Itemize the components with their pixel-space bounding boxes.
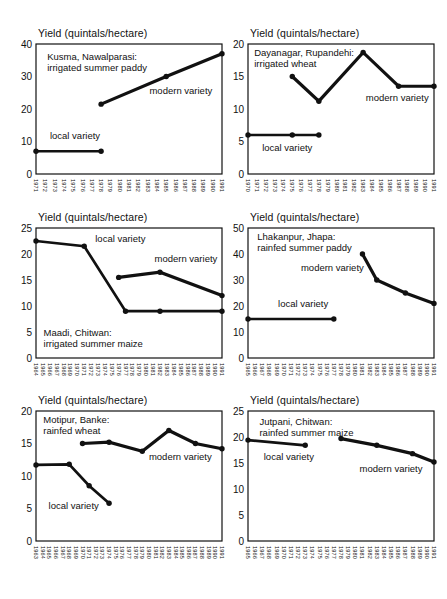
modern-variety-line [83,431,223,452]
local-variety-line [36,464,109,503]
location-label: irrigated summer paddy [47,62,147,73]
x-tick-label: 1966 [47,363,53,376]
x-tick-label: 1983 [374,363,380,376]
x-tick-label: 1991 [431,363,437,376]
y-tick-label: 10 [233,327,245,338]
data-point-marker [374,277,379,282]
x-tick-label: 1980 [352,363,358,376]
data-point-marker [245,437,250,442]
x-tick-label: 1976 [116,363,122,376]
modern-variety-label: modern variety [154,253,217,264]
data-point-marker [410,451,415,456]
x-tick-label: 1981 [359,363,365,376]
x-tick-label: 1984 [369,179,375,192]
x-tick-label: 1979 [139,546,145,559]
x-tick-label: 1988 [410,363,416,376]
y-tick-label: 20 [21,104,33,115]
chart-dayanagar-rupandehi: Yield (quintals/hectare) 051015201970197… [222,26,438,194]
data-point-marker [303,443,308,448]
x-tick-label: 1980 [352,546,358,559]
x-tick-label: 1970 [281,546,287,559]
x-tick-label: 1976 [119,546,125,559]
data-point-marker [82,244,87,249]
x-tick-label: 1974 [106,546,112,559]
y-tick-label: 10 [21,471,33,482]
data-point-marker [106,501,111,506]
data-point-marker [396,84,401,89]
chart-title: Yield (quintals/hectare) [10,26,226,40]
y-tick-label: 20 [21,407,33,417]
chart-motipur-banke: Yield (quintals/hectare) 051015201963196… [10,393,226,561]
x-tick-label: 1971 [81,363,87,376]
x-tick-label: 1989 [205,363,211,376]
x-tick-label: 1980 [334,179,340,192]
y-tick-label: 0 [238,536,244,547]
data-point-marker [166,428,171,433]
x-tick-label: 1972 [295,363,301,376]
x-tick-label: 1990 [424,363,430,376]
modern-variety-label: modern variety [360,463,423,474]
data-point-marker [164,74,169,79]
x-tick-label: 1967 [259,363,265,376]
location-label: Maadi, Chitwan: [44,327,112,338]
modern-variety-line [341,439,434,462]
data-point-marker [33,462,38,467]
x-tick-label: 1978 [98,179,104,192]
x-tick-label: 1973 [52,179,58,192]
location-label: Kusma, Nawalparasi: [47,51,137,62]
x-tick-label: 1985 [378,179,384,192]
x-tick-label: 1968 [266,363,272,376]
x-tick-label: 1985 [179,546,185,559]
x-tick-label: 1965 [245,363,251,376]
x-tick-label: 1982 [157,363,163,376]
x-tick-label: 1967 [259,546,265,559]
yield-comparison-figure: Yield (quintals/hectare) 010203040197119… [0,0,447,599]
chart-canvas: 0102030405019651966196719681969197019711… [222,224,438,378]
chart-canvas: 0102030401971197219731974197519761977197… [10,40,226,194]
local-variety-label: local variety [95,233,145,244]
x-tick-label: 1986 [185,363,191,376]
data-point-marker [106,440,111,445]
location-label: irrigated wheat [254,58,317,69]
y-tick-label: 5 [238,510,244,521]
x-tick-label: 1985 [388,546,394,559]
location-label: irrigated summer maize [44,338,143,349]
x-tick-label: 1983 [360,179,366,192]
x-tick-label: 1978 [316,179,322,192]
chart-title: Yield (quintals/hectare) [222,26,438,40]
x-tick-label: 1990 [210,179,216,192]
x-tick-label: 1982 [135,179,141,192]
data-point-marker [86,483,91,488]
x-tick-label: 1991 [431,179,437,192]
x-tick-label: 1983 [166,546,172,559]
x-tick-label: 1975 [70,179,76,192]
data-point-marker [316,99,321,104]
x-tick-label: 1981 [359,546,365,559]
x-tick-label: 1971 [288,363,294,376]
chart-title: Yield (quintals/hectare) [10,210,226,224]
data-point-marker [290,132,295,137]
x-tick-label: 1986 [186,546,192,559]
y-tick-label: 15 [233,458,245,469]
x-tick-label: 1979 [345,546,351,559]
x-tick-label: 1965 [245,546,251,559]
local-variety-line [248,440,305,445]
x-tick-label: 1976 [324,546,330,559]
x-tick-label: 1977 [89,179,95,192]
y-tick-label: 25 [21,224,33,234]
x-tick-label: 1969 [73,546,79,559]
data-point-marker [116,275,121,280]
data-point-marker [157,270,162,275]
y-tick-label: 20 [233,40,245,50]
chart-canvas: 0510152025196419651966196719681969197019… [10,224,226,378]
local-variety-label: local variety [49,500,99,511]
x-tick-label: 1978 [133,546,139,559]
y-tick-label: 15 [21,438,33,449]
data-point-marker [360,50,365,55]
data-point-marker [245,132,250,137]
x-tick-label: 1981 [126,179,132,192]
x-tick-label: 1968 [66,546,72,559]
x-tick-label: 1985 [388,363,394,376]
x-tick-label: 1981 [153,546,159,559]
x-tick-label: 1989 [206,546,212,559]
